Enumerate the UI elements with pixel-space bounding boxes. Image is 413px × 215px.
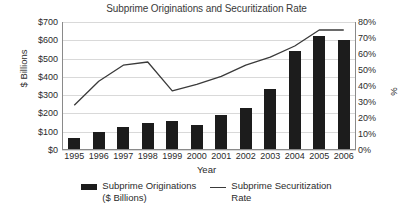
y-axis-ticks-right: 0%10%20%30%40%50%60%70%80% [358, 22, 398, 150]
x-tick-label: 1998 [136, 151, 161, 161]
y-tick-label-right: 0% [358, 145, 371, 155]
y-tick-label-right: 70% [358, 33, 376, 43]
y-tick-label-left: $700 [38, 17, 58, 27]
y-tick-label-right: 30% [358, 97, 376, 107]
y-tick-label-right: 60% [358, 49, 376, 59]
y-tick-label-left: $100 [38, 127, 58, 137]
y-tick-label-left: $600 [38, 35, 58, 45]
chart-legend: Subprime Originations ($ Billions) Subpr… [0, 180, 413, 204]
y-tick-label-right: 10% [358, 129, 376, 139]
y-tick-label-left: $300 [38, 90, 58, 100]
y-tick-label-left: $200 [38, 108, 58, 118]
x-tick-label: 2001 [209, 151, 234, 161]
chart-title: Subprime Originations and Securitization… [0, 3, 413, 14]
y-tick-label-left: $400 [38, 72, 58, 82]
line-series [62, 22, 356, 150]
x-tick-label: 2002 [234, 151, 259, 161]
x-axis-label: Year [0, 164, 413, 175]
x-tick-label: 1996 [87, 151, 112, 161]
y-tick-label-right: 50% [358, 65, 376, 75]
y-tick-label-left: $500 [38, 54, 58, 64]
x-tick-label: 2000 [185, 151, 210, 161]
legend-item-originations: Subprime Originations ($ Billions) [81, 180, 196, 204]
legend-label: Subprime Securitization Rate [231, 180, 331, 204]
y-axis-ticks-left: $0$100$200$300$400$500$600$700 [0, 22, 58, 150]
y-tick-label-left: $0 [48, 145, 58, 155]
axis-line-bottom [62, 149, 356, 150]
x-tick-label: 1997 [111, 151, 136, 161]
legend-label: Subprime Originations ($ Billions) [102, 180, 196, 204]
line-swatch-icon [210, 187, 226, 188]
y-tick-label-right: 20% [358, 113, 376, 123]
x-tick-label: 1999 [160, 151, 185, 161]
x-tick-label: 2006 [332, 151, 357, 161]
x-tick-label: 2003 [258, 151, 283, 161]
y-tick-label-right: 80% [358, 17, 376, 27]
x-tick-label: 1995 [62, 151, 87, 161]
x-tick-label: 2004 [283, 151, 308, 161]
bar-swatch-icon [81, 184, 97, 190]
y-tick-label-right: 40% [358, 81, 376, 91]
x-tick-label: 2005 [307, 151, 332, 161]
x-axis-ticks: 1995199619971998199920002001200220032004… [62, 151, 356, 165]
chart-container: Subprime Originations and Securitization… [0, 0, 413, 215]
plot-area [62, 22, 356, 150]
legend-item-securitization-rate: Subprime Securitization Rate [210, 180, 331, 204]
